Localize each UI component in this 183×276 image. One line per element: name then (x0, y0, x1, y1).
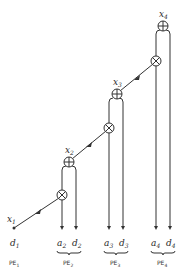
label-pe1: PE1 (9, 259, 19, 268)
flow-arrow-icon (35, 209, 41, 214)
label-pe4: PE4 (157, 259, 167, 268)
label-d1: d1 (10, 238, 20, 249)
label-x1: x1 (7, 214, 16, 225)
label-pe3: PE3 (110, 259, 120, 268)
label-a3: a3 (104, 238, 113, 249)
label-x4: x4 (159, 9, 168, 20)
systolic-array-diagram: x1 x2 x3 x4 d1 a2 d2 a3 d3 a4 d4 PE1 PE2… (0, 0, 183, 276)
label-d4: d4 (166, 238, 176, 249)
label-a2: a2 (57, 238, 66, 249)
label-d2: d2 (72, 238, 82, 249)
diagonal-flow (14, 64, 153, 228)
pe2-cell (57, 157, 76, 228)
pe3-cell (104, 89, 123, 228)
label-x2: x2 (65, 145, 74, 156)
label-x3: x3 (113, 77, 122, 88)
input-dot (13, 227, 16, 230)
label-a4: a4 (151, 238, 160, 249)
input-arrowheads (60, 226, 172, 230)
label-pe2: PE2 (63, 259, 73, 268)
pe-braces (57, 251, 175, 255)
pe4-cell (151, 21, 170, 228)
label-d3: d3 (119, 238, 129, 249)
